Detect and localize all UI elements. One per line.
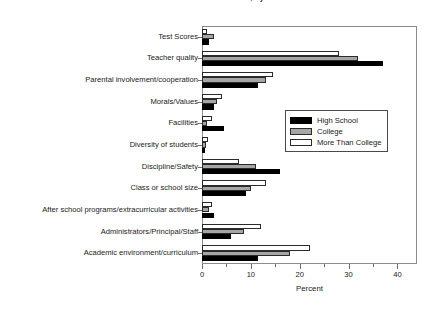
x-tick-major	[397, 264, 398, 269]
category-label: Morals/Values	[0, 98, 198, 106]
category-label: After school programs/extracurricular ac…	[0, 206, 198, 214]
bar-hs	[202, 191, 246, 196]
x-tick-label: 20	[295, 270, 303, 279]
x-tick-minor	[324, 264, 325, 267]
x-tick-major	[251, 264, 252, 269]
x-tick-major	[300, 264, 301, 269]
category-label: Discipline/Safety	[0, 163, 198, 171]
x-tick-major	[349, 264, 350, 269]
category-axis: Test ScoresTeacher qualityParental invol…	[0, 26, 198, 264]
chart-title: Most Valuable Characteristic of a School…	[0, 0, 429, 2]
x-tick-label: 0	[200, 270, 204, 279]
category-label: Test Scores	[0, 33, 198, 41]
bar-hs	[202, 234, 231, 239]
bar-hs	[202, 104, 214, 109]
category-label: Administrators/Principal/Staff	[0, 228, 198, 236]
legend-swatch-college	[290, 128, 312, 135]
x-tick-label: 30	[344, 270, 352, 279]
bar-hs	[202, 39, 209, 44]
category-label: Class or school size	[0, 184, 198, 192]
x-tick-minor	[275, 264, 276, 267]
bar-hs	[202, 83, 258, 88]
legend-item: College	[290, 126, 383, 136]
legend-swatch-more-than-college	[290, 139, 312, 146]
x-tick-label: 40	[393, 270, 401, 279]
legend-item: High School	[290, 115, 383, 125]
x-axis-title: Percent	[202, 284, 417, 293]
bar-hs	[202, 213, 214, 218]
category-label: Diversity of students	[0, 141, 198, 149]
category-label: Teacher quality	[0, 54, 198, 62]
bar-hs	[202, 169, 280, 174]
bar-chart: Most Valuable Characteristic of a School…	[0, 0, 429, 309]
bar-hs	[202, 126, 224, 131]
bar-hs	[202, 61, 383, 66]
chart-legend: High School College More Than College	[285, 110, 388, 152]
category-label: Facilities	[0, 119, 198, 127]
x-tick-minor	[373, 264, 374, 267]
legend-label: College	[317, 127, 343, 136]
bar-hs	[202, 148, 205, 153]
legend-label: High School	[317, 116, 358, 125]
legend-swatch-high-school	[290, 117, 312, 124]
x-axis: 010203040	[202, 264, 417, 272]
category-label: Parental involvement/cooperation	[0, 76, 198, 84]
x-tick-minor	[226, 264, 227, 267]
legend-label: More Than College	[317, 138, 381, 147]
bar-hs	[202, 256, 258, 261]
legend-item: More Than College	[290, 137, 383, 147]
x-tick-major	[202, 264, 203, 269]
category-label: Academic environment/curriculum	[0, 249, 198, 257]
x-tick-label: 10	[247, 270, 255, 279]
